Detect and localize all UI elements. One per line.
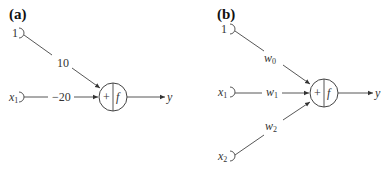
neuron-node: + f	[99, 83, 127, 111]
sum-symbol: +	[103, 90, 110, 104]
neuron-node: + f	[310, 79, 338, 107]
panel-a: (a) 1 x1 10 −20 + f y	[8, 6, 173, 111]
input-bracket-icon	[230, 151, 235, 161]
edge-bias-arrow	[283, 65, 310, 84]
input-label: x1	[217, 85, 227, 100]
weight-label: 10	[57, 56, 69, 70]
weight-label: w1	[266, 85, 278, 100]
input-bracket-icon	[230, 24, 235, 34]
edge-x2-arrow	[283, 102, 310, 120]
weight-label: w2	[265, 119, 277, 134]
input-bracket-icon	[19, 92, 24, 102]
weight-label: −20	[52, 90, 71, 104]
input-label: x2	[217, 149, 227, 164]
input-bracket-icon	[19, 28, 24, 38]
edge-x2-segment	[235, 135, 264, 155]
sum-symbol: +	[314, 86, 321, 100]
edge-bias-segment	[24, 35, 52, 55]
weight-label: w0	[264, 51, 276, 66]
perceptron-diagrams: (a) 1 x1 10 −20 + f y (b)	[0, 0, 387, 170]
output-label: y	[166, 90, 173, 104]
input-label: x1	[8, 90, 18, 105]
panel-b: (b) 1 x1 x2 w0 w1 w2 + f	[217, 6, 381, 164]
edge-bias-arrow	[72, 68, 100, 88]
input-node-bias: 1	[221, 22, 235, 36]
input-bracket-icon	[230, 87, 235, 97]
input-node-x1: x1	[8, 90, 24, 105]
input-node-x2: x2	[217, 149, 235, 164]
input-label: 1	[12, 26, 18, 40]
input-node-bias: 1	[12, 26, 24, 40]
input-node-x1: x1	[217, 85, 235, 100]
input-label: 1	[221, 22, 227, 36]
panel-b-label: (b)	[217, 6, 235, 23]
panel-a-label: (a)	[9, 6, 27, 23]
edge-bias-segment	[235, 31, 264, 51]
output-label: y	[374, 86, 381, 100]
